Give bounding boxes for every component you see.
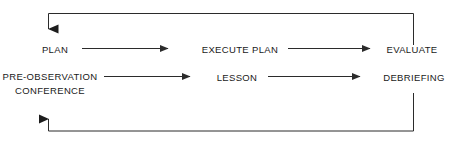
node-pre-observation-conference-line-2: CONFERENCE <box>3 83 98 97</box>
edge-evaluate-to-plan <box>49 14 414 46</box>
node-plan[interactable]: PLAN <box>42 43 68 56</box>
node-pre-observation-conference[interactable]: PRE-OBSERVATION CONFERENCE <box>3 70 98 97</box>
node-lesson[interactable]: LESSON <box>217 71 258 84</box>
node-execute-plan[interactable]: EXECUTE PLAN <box>202 43 279 56</box>
node-evaluate[interactable]: EVALUATE <box>386 43 437 56</box>
node-pre-observation-conference-line-1: PRE-OBSERVATION <box>3 70 98 84</box>
node-debriefing[interactable]: DEBRIEFING <box>383 71 445 84</box>
edge-debriefing-to-pre-observation-conference <box>49 93 414 131</box>
diagram-canvas: PLAN EXECUTE PLAN EVALUATE PRE-OBSERVATI… <box>0 0 449 142</box>
